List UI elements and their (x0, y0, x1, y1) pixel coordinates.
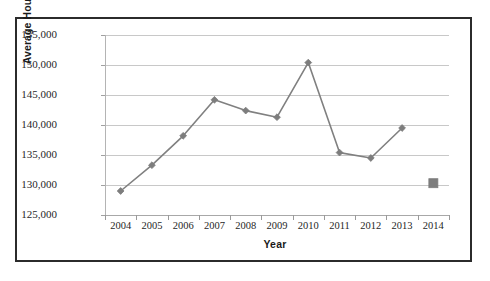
data-point-diamond (305, 59, 312, 66)
plot-area: 155,000150,000145,000140,000135,000130,0… (105, 35, 449, 215)
y-axis-tick-label: 130,000 (0, 179, 57, 190)
y-axis-tickmark (101, 95, 105, 96)
x-axis-tick-labels: 2004200520062007200820092010201120122013… (105, 220, 449, 236)
y-axis-tick-label: 150,000 (0, 59, 57, 70)
gridline (105, 215, 449, 216)
series-line-chart (105, 35, 449, 215)
data-point-diamond (274, 114, 281, 121)
y-axis-tick-label: 135,000 (0, 149, 57, 160)
y-axis-tickmark (101, 185, 105, 186)
y-axis-tickmark (101, 155, 105, 156)
y-axis-tick-label: 125,000 (0, 209, 57, 220)
y-axis-tickmark (101, 35, 105, 36)
y-axis-tick-label: 145,000 (0, 89, 57, 100)
y-axis-tick-label: 155,000 (0, 29, 57, 40)
x-axis-tick-label: 2014 (413, 220, 453, 231)
data-point-diamond (242, 107, 249, 114)
y-axis-tick-label: 140,000 (0, 119, 57, 130)
data-point-diamond (336, 149, 343, 156)
y-axis-tickmark (101, 125, 105, 126)
x-axis-title: Year (105, 238, 445, 250)
y-axis-tickmark (101, 65, 105, 66)
series-line (121, 63, 402, 191)
data-point-square (429, 179, 438, 188)
